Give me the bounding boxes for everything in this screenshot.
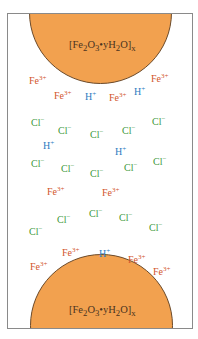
fe-ion-label: Fe3+	[54, 90, 71, 101]
h-ion-label: H+	[99, 248, 110, 259]
h-ion-label: H+	[85, 91, 96, 102]
diagram-frame: [Fe2O3•yH2O]x [Fe2O3•yH2O]x Fe3+Fe3+Fe3+…	[7, 13, 193, 329]
cl-ion-label: Cl−	[31, 117, 44, 128]
cl-ion-label: Cl−	[90, 168, 103, 179]
cl-ion-label: Cl−	[57, 214, 70, 225]
cl-ion-label: Cl−	[90, 129, 103, 140]
cl-ion-label: Cl−	[122, 125, 135, 136]
fe-ion-label: Fe3+	[128, 254, 145, 265]
fe-ion-label: Fe3+	[62, 247, 79, 258]
h-ion-label: H+	[43, 140, 54, 151]
cl-ion-label: Cl−	[149, 222, 162, 233]
cl-ion-label: Cl−	[29, 226, 42, 237]
fe-ion-label: Fe3+	[151, 73, 168, 84]
fe-ion-label: Fe3+	[30, 261, 47, 272]
rust-formula-bottom: [Fe2O3•yH2O]x	[69, 304, 136, 318]
cl-ion-label: Cl−	[61, 163, 74, 174]
rust-formula-top: [Fe2O3•yH2O]x	[69, 39, 136, 53]
cl-ion-label: Cl−	[152, 116, 165, 127]
fe-ion-label: Fe3+	[47, 186, 64, 197]
h-ion-label: H+	[115, 146, 126, 157]
cl-ion-label: Cl−	[153, 156, 166, 167]
cl-ion-label: Cl−	[31, 158, 44, 169]
fe-ion-label: Fe3+	[102, 187, 119, 198]
cl-ion-label: Cl−	[124, 162, 137, 173]
fe-ion-label: Fe3+	[109, 92, 126, 103]
h-ion-label: H+	[134, 86, 145, 97]
cl-ion-label: Cl−	[119, 212, 132, 223]
fe-ion-label: Fe3+	[29, 75, 46, 86]
cl-ion-label: Cl−	[89, 208, 102, 219]
cl-ion-label: Cl−	[58, 125, 71, 136]
fe-ion-label: Fe3+	[153, 266, 170, 277]
